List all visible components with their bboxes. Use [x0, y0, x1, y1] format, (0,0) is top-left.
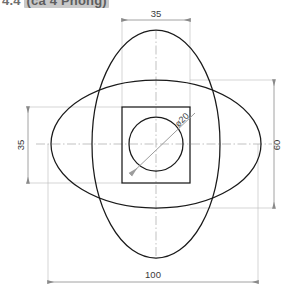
extension-lines	[26, 18, 275, 284]
center-lines	[36, 30, 272, 259]
dimension-right: 60	[271, 80, 282, 208]
dimension-right-label: 60	[271, 140, 282, 151]
page-header: 4.4 (ca 4 Phong)	[0, 0, 300, 11]
dimension-bottom-label: 100	[145, 269, 161, 280]
header-prefix: 4.4	[2, 0, 21, 8]
header-title: 4.4 (ca 4 Phong)	[2, 0, 109, 8]
dimension-left: 35	[15, 107, 28, 183]
technical-drawing: ø20 35 35 60 100	[0, 0, 300, 299]
diameter-leader: ø20	[131, 111, 195, 174]
dimension-bottom: 100	[48, 269, 258, 282]
header-highlight: (ca 4 Phong)	[24, 0, 108, 8]
drawing-canvas: 4.4 (ca 4 Phong)	[0, 0, 300, 299]
dimension-left-label: 35	[15, 140, 26, 151]
